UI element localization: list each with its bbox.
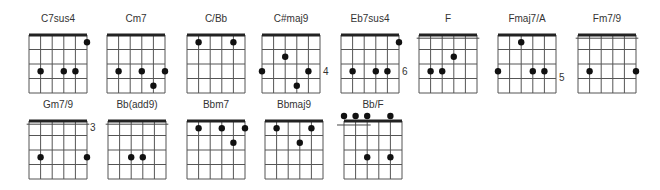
finger-dot: [495, 68, 501, 74]
finger-dot: [162, 68, 168, 74]
open-string-dot: [364, 113, 370, 119]
finger-dot: [61, 68, 67, 74]
finger-dot: [364, 154, 370, 160]
chord-diagram: [334, 111, 412, 189]
chord-name: C/Bb: [176, 13, 256, 24]
chord-diagram: [255, 111, 333, 189]
chord-diagram: 4: [252, 25, 330, 103]
chord-diagram: 6: [331, 25, 409, 103]
open-string-dot: [341, 113, 347, 119]
fret-number-label: 5: [559, 72, 565, 83]
chord-diagram: [97, 25, 175, 103]
open-string-dot: [387, 113, 393, 119]
finger-dot: [294, 83, 300, 89]
chord-diagram: [98, 111, 176, 189]
finger-dot: [633, 68, 639, 74]
chord-name: Cm7: [96, 13, 176, 24]
finger-dot: [387, 154, 393, 160]
finger-dot: [451, 54, 457, 60]
chord-diagram: [177, 25, 255, 103]
chord-name: C#maj9: [251, 13, 331, 24]
finger-dot: [195, 39, 201, 45]
finger-dot: [195, 125, 201, 131]
chord-diagram: [177, 111, 255, 189]
finger-dot: [384, 68, 390, 74]
finger-dot: [150, 83, 156, 89]
finger-dot: [219, 125, 225, 131]
finger-dot: [518, 39, 524, 45]
chord-diagram: 5: [488, 25, 566, 103]
finger-dot: [242, 125, 248, 131]
finger-dot: [282, 54, 288, 60]
fret-number-label: 3: [90, 122, 96, 133]
chord-name: Fm7/9: [567, 13, 647, 24]
chord-name: Eb7sus4: [330, 13, 410, 24]
finger-dot: [396, 39, 402, 45]
finger-dot: [530, 68, 536, 74]
finger-dot: [439, 68, 445, 74]
fret-number-label: 6: [402, 66, 408, 77]
fret-number-label: 4: [323, 66, 329, 77]
finger-dot: [349, 68, 355, 74]
finger-dot: [230, 140, 236, 146]
finger-dot: [427, 68, 433, 74]
finger-dot: [273, 125, 279, 131]
finger-dot: [586, 68, 592, 74]
chord-name: Bbmaj9: [254, 99, 334, 110]
chord-name: Fmaj7/A: [487, 13, 567, 24]
finger-dot: [541, 68, 547, 74]
finger-dot: [37, 68, 43, 74]
finger-dot: [84, 154, 90, 160]
finger-dot: [128, 154, 134, 160]
chord-diagram: [19, 25, 97, 103]
chord-name: Gm7/9: [18, 99, 98, 110]
chord-diagram: [568, 25, 646, 103]
chord-name: F: [408, 13, 488, 24]
finger-dot: [84, 39, 90, 45]
chord-name: Bbm7: [176, 99, 256, 110]
chord-diagram: [409, 25, 487, 103]
chord-name: Bb/F: [333, 99, 413, 110]
chord-name: C7sus4: [18, 13, 98, 24]
finger-dot: [230, 39, 236, 45]
finger-dot: [308, 125, 314, 131]
finger-dot: [297, 140, 303, 146]
open-string-dot: [352, 113, 358, 119]
chord-diagram: 3: [19, 111, 97, 189]
finger-dot: [373, 68, 379, 74]
finger-dot: [37, 154, 43, 160]
finger-dot: [259, 68, 265, 74]
finger-dot: [140, 154, 146, 160]
chord-name: Bb(add9): [97, 99, 177, 110]
finger-dot: [115, 68, 121, 74]
finger-dot: [139, 68, 145, 74]
finger-dot: [72, 68, 78, 74]
finger-dot: [305, 68, 311, 74]
